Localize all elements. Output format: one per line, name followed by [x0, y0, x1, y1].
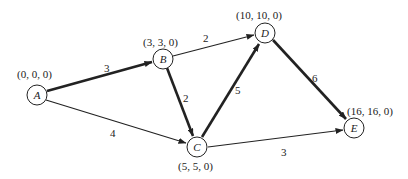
node-e-coords: (16, 16, 0)	[347, 106, 393, 117]
node-b-label: B	[153, 54, 173, 65]
weight-a-c: 4	[110, 128, 116, 139]
node-b-coords: (3, 3, 0)	[143, 37, 178, 48]
weight-b-c: 2	[183, 93, 189, 104]
edge-c-d	[202, 44, 259, 137]
node-a-label: A	[27, 90, 47, 101]
edge-d-e	[273, 40, 346, 119]
weight-b-d: 2	[203, 33, 209, 44]
weight-c-e: 3	[281, 147, 287, 158]
node-d-label: D	[255, 28, 275, 39]
edge-c-e	[208, 130, 343, 147]
weight-a-b: 3	[104, 63, 110, 74]
node-c-coords: (5, 5, 0)	[178, 161, 213, 172]
edge-a-b	[47, 62, 152, 91]
edge-b-c	[167, 68, 193, 136]
weight-d-e: 6	[312, 73, 318, 84]
edge-b-d	[173, 35, 254, 56]
node-a-coords: (0, 0, 0)	[17, 69, 52, 80]
edge-a-c	[46, 100, 186, 143]
node-e-label: E	[344, 123, 364, 134]
node-d-coords: (10, 10, 0)	[236, 10, 282, 21]
node-c-label: C	[187, 142, 207, 153]
weight-c-d: 5	[235, 85, 241, 96]
